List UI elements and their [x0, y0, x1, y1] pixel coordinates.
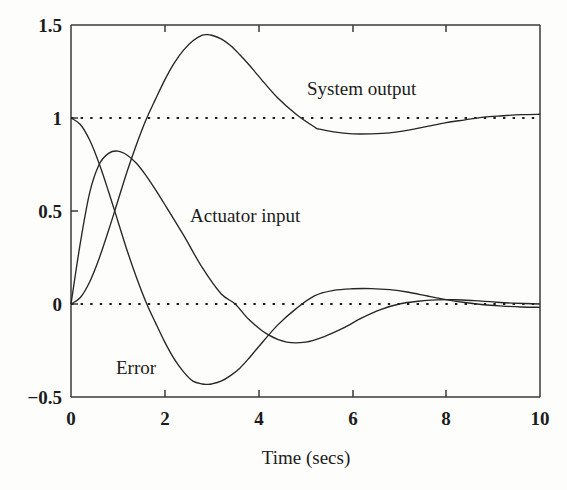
y-tick-label-1: 1: [53, 108, 63, 129]
chart-figure: 1.5 1 0.5 0 −0.5 0 2 4 6 8 10 Time (secs…: [0, 0, 567, 490]
curve-error: [71, 118, 540, 384]
y-tick-label-0: 0: [53, 294, 63, 315]
x-tick-label-10: 10: [531, 408, 550, 429]
x-tick-label-6: 6: [348, 408, 358, 429]
y-tick-label-0-5: 0.5: [38, 201, 62, 222]
annotation-system-output: System output: [307, 78, 417, 99]
x-tick-label-0: 0: [66, 408, 76, 429]
curve-actuator-input: [71, 151, 540, 343]
plot-canvas: 1.5 1 0.5 0 −0.5 0 2 4 6 8 10 Time (secs…: [0, 0, 567, 490]
y-tick-label-1-5: 1.5: [38, 15, 62, 36]
x-axis-title: Time (secs): [262, 447, 351, 469]
x-tick-label-2: 2: [160, 408, 170, 429]
x-tick-label-4: 4: [254, 408, 264, 429]
annotation-actuator-input: Actuator input: [190, 205, 301, 226]
y-tick-label-neg-0-5: −0.5: [27, 387, 62, 408]
annotation-error: Error: [116, 357, 157, 378]
x-tick-label-8: 8: [441, 408, 451, 429]
